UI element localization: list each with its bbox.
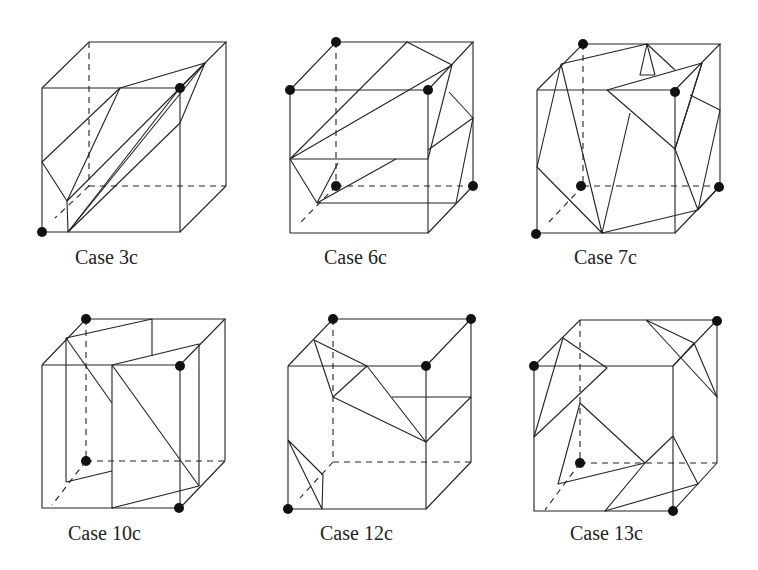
vertex-marker [285,85,295,95]
vertex-marker [283,504,293,514]
isosurface-triangles [66,319,199,508]
vertex-marker [712,316,722,326]
vertex-marker [466,314,476,324]
cube-case-3c [37,42,226,237]
caption-case-10c: Case 10c [68,522,141,545]
isosurface-triangles [534,320,717,511]
caption-case-3c: Case 3c [75,246,138,269]
cube-edges [288,319,471,509]
vertex-marker [37,227,47,237]
cube-case-13c [529,316,722,516]
vertex-marker [668,506,678,516]
cube-edges [42,319,225,508]
vertex-marker [328,314,338,324]
vertex-marker [714,182,724,192]
vertex-marker [331,37,341,47]
isosurface-triangles [290,42,473,203]
cube-case-12c [283,314,476,514]
vertex-marker [578,39,588,49]
vertex-marker [175,361,185,371]
vertex-marker [531,229,541,239]
caption-case-6c: Case 6c [324,246,387,269]
vertex-marker [529,361,539,371]
vertex-marker [423,85,433,95]
vertex-marker [468,181,478,191]
caption-case-12c: Case 12c [320,522,393,545]
vertex-marker [421,361,431,371]
caption-case-13c: Case 13c [570,522,643,545]
isosurface-triangles [288,340,471,509]
vertex-marker [670,87,680,97]
vertex-marker [81,456,91,466]
vertex-marker [576,181,586,191]
cube-edges [537,44,720,233]
vertex-marker [575,458,585,468]
vertex-marker [175,83,185,93]
cube-case-7c [531,39,724,239]
figure-canvas [0,0,758,570]
vertex-marker [81,314,91,324]
vertex-marker [174,503,184,513]
cube-case-10c [42,314,225,513]
vertex-marker [331,181,341,191]
caption-case-7c: Case 7c [574,246,637,269]
cube-case-6c [285,37,478,233]
